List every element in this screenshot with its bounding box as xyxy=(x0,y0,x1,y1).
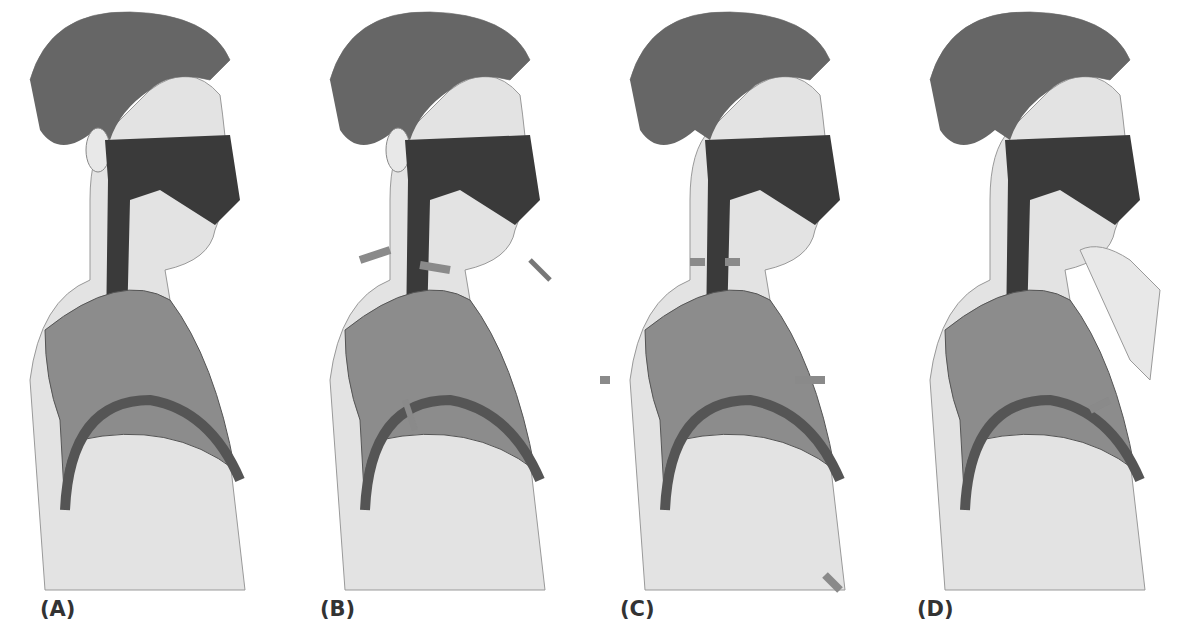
respiratory-illustration-d xyxy=(900,0,1181,600)
arrow-icon xyxy=(420,265,450,270)
panel-label-a: (A) xyxy=(40,597,75,621)
respiratory-illustration-c xyxy=(600,0,890,600)
arrow-icon xyxy=(360,250,390,260)
panel-b: (B) xyxy=(300,0,590,643)
panel-label-c: (C) xyxy=(620,597,655,621)
respiratory-illustration-b xyxy=(300,0,590,600)
respiratory-illustration-a xyxy=(0,0,290,600)
panel-c: (C) xyxy=(600,0,890,643)
panel-label-b: (B) xyxy=(320,597,355,621)
panel-d: (D) xyxy=(900,0,1181,643)
panel-label-d: (D) xyxy=(917,597,954,621)
panel-a: (A) xyxy=(0,0,290,643)
